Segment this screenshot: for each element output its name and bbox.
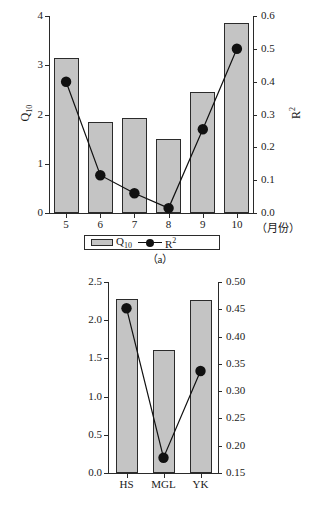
chart-a-legend-item-r2: R2 bbox=[138, 236, 176, 250]
bar-swatch-icon bbox=[91, 239, 113, 246]
chart-b-secondary-y-tick-label: 0.40 bbox=[226, 331, 266, 342]
chart-b-secondary-y-tick-label: 0.45 bbox=[226, 303, 266, 314]
chart-a-secondary-y-tick-label: 0.6 bbox=[261, 10, 301, 21]
chart-a-secondary-y-axis-title: R2 bbox=[288, 93, 304, 133]
chart-a-x-tick-label: 10 bbox=[213, 219, 261, 230]
chart-a-y-tick-label: 1 bbox=[5, 158, 43, 169]
chart-a-legend-item-q10: Q10 bbox=[91, 235, 132, 250]
chart-a-line-marker bbox=[95, 170, 105, 180]
chart-a-secondary-y-tick-label: 0.0 bbox=[261, 207, 301, 218]
chart-a-secondary-y-tick-label: 0.1 bbox=[261, 174, 301, 185]
chart-b-y-tick-label: 2.0 bbox=[64, 314, 102, 325]
chart-a-y-axis-title: Q10 bbox=[18, 93, 34, 133]
chart-a-line-marker bbox=[198, 124, 208, 134]
chart-a-line-marker bbox=[232, 44, 242, 54]
chart-b-y-tick-label: 0.5 bbox=[64, 429, 102, 440]
chart-b-line-marker bbox=[158, 453, 168, 463]
chart-a-secondary-y-tick-label: 0.4 bbox=[261, 76, 301, 87]
chart-b-line-series bbox=[108, 282, 219, 473]
chart-b-line-path bbox=[127, 308, 201, 458]
chart-b-secondary-y-tick-label: 0.30 bbox=[226, 385, 266, 396]
chart-b-x-tick-label: YK bbox=[177, 479, 225, 490]
chart-b-y-tick-label: 1.0 bbox=[64, 391, 102, 402]
chart-b-y-tick-label: 2.5 bbox=[64, 276, 102, 287]
chart-b-secondary-y-tick bbox=[218, 473, 222, 474]
chart-b-plot-area: 0.00.51.01.52.02.50.150.200.250.300.350.… bbox=[108, 282, 219, 473]
chart-b-secondary-y-tick-label: 0.25 bbox=[226, 412, 266, 423]
chart-b-y-tick-label: 0.0 bbox=[64, 467, 102, 478]
chart-a-y-tick bbox=[45, 213, 49, 214]
figure-panel-b: 0.00.51.01.52.02.50.150.200.250.300.350.… bbox=[0, 262, 320, 506]
chart-a-y-tick-label: 0 bbox=[5, 207, 43, 218]
chart-b-line-marker bbox=[195, 366, 205, 376]
chart-a-legend-label-r2: R2 bbox=[165, 236, 176, 250]
chart-a-y-tick-label: 3 bbox=[5, 59, 43, 70]
chart-b-y-tick bbox=[104, 473, 108, 474]
chart-a-y-axis-title-sub: 10 bbox=[25, 105, 34, 113]
chart-a-line-marker bbox=[129, 188, 139, 198]
chart-a-secondary-y-tick-label: 0.2 bbox=[261, 141, 301, 152]
chart-a-legend-label-q10: Q10 bbox=[116, 235, 132, 250]
line-marker-swatch-icon bbox=[138, 238, 162, 247]
chart-b-y-tick-label: 1.5 bbox=[64, 352, 102, 363]
chart-b-secondary-y-tick-label: 0.50 bbox=[226, 276, 266, 287]
chart-b-secondary-y-tick-label: 0.20 bbox=[226, 440, 266, 451]
figure-panel-a: 012340.00.10.20.30.40.50.65678910 Q10 R2… bbox=[0, 0, 320, 262]
chart-a-line-series bbox=[49, 16, 254, 213]
chart-a-line-marker bbox=[61, 77, 71, 87]
chart-b-secondary-y-tick-label: 0.15 bbox=[226, 467, 266, 478]
chart-a-y-tick-label: 4 bbox=[5, 10, 43, 21]
chart-b-secondary-y-tick-label: 0.35 bbox=[226, 358, 266, 369]
chart-a-x-axis-line bbox=[49, 213, 254, 214]
chart-a-legend: Q10 R2 bbox=[84, 235, 220, 250]
chart-a-y-axis-title-base: Q bbox=[18, 113, 32, 122]
chart-a-secondary-y-tick-label: 0.5 bbox=[261, 43, 301, 54]
chart-a-x-axis-unit-label: （月份） bbox=[256, 219, 300, 235]
chart-a-secondary-y-axis-title-sup: 2 bbox=[288, 107, 297, 111]
chart-a-plot-area: 012340.00.10.20.30.40.50.65678910 bbox=[49, 16, 254, 213]
chart-a-line-path bbox=[66, 49, 237, 208]
chart-a-secondary-y-axis-title-base: R bbox=[289, 111, 303, 119]
chart-b-line-marker bbox=[121, 303, 131, 313]
chart-a-line-marker bbox=[163, 203, 173, 213]
chart-a-secondary-y-tick bbox=[253, 213, 257, 214]
